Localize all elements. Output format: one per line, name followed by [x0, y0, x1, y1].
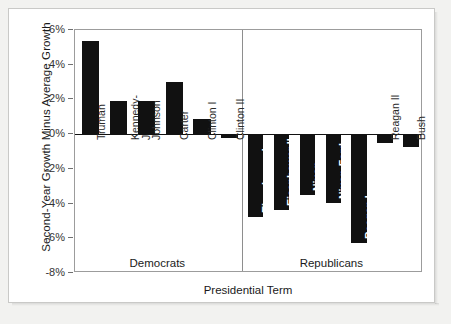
y-axis-tick-mark [68, 272, 73, 273]
bar [110, 101, 127, 134]
figure-panel: Second-Year Growth Minus Average Growth … [8, 8, 435, 303]
bar-category-label: Clinton I [207, 102, 218, 141]
bar-category-label: Clinton II [235, 99, 246, 140]
group-divider-line [242, 30, 243, 271]
y-axis-tick-label: -2% [31, 162, 65, 174]
y-axis-tick-label: -8% [31, 266, 65, 278]
y-axis-tick-label: 2% [31, 92, 65, 104]
y-axis-tick-mark [68, 64, 73, 65]
y-axis-tick-label: 0% [31, 127, 65, 139]
group-label-democrats: Democrats [74, 257, 241, 269]
bar-category-label: Carter [179, 111, 190, 140]
y-axis-tick-label: -6% [31, 231, 65, 243]
x-axis-title: Presidential Term [74, 284, 422, 296]
y-axis-tick-labels: 6%4%2%0%-2%-4%-6%-8% [31, 9, 65, 304]
y-axis-tick-label: -4% [31, 197, 65, 209]
chart-page: Second-Year Growth Minus Average Growth … [0, 0, 451, 324]
y-axis-tick-mark [68, 133, 73, 134]
panel-shadow-right [435, 12, 438, 304]
y-axis-tick-mark [68, 237, 73, 238]
bar-category-label: Truman [96, 104, 107, 140]
bar-category-label: Nixon-Ford [338, 143, 349, 199]
bar-category-label: Reagan II [390, 95, 401, 141]
y-axis-tick-mark [68, 98, 73, 99]
bar-category-label: Eisenhower II [286, 138, 297, 206]
y-axis-tick-mark [68, 203, 73, 204]
bar-category-label: Johnson [151, 100, 162, 140]
group-label-republicans: Republicans [241, 257, 422, 269]
y-axis-tick-label: 4% [31, 58, 65, 70]
y-axis-tick-label: 6% [31, 23, 65, 35]
bar-category-label: Eisenhower I [261, 149, 272, 214]
plot-area: TrumanKennedy-JohnsonJohnsonCarterClinto… [74, 29, 422, 272]
y-axis-tick-mark [68, 168, 73, 169]
bar-category-label: Bush [416, 116, 427, 140]
bar-category-label: Nixon [312, 162, 323, 191]
y-axis-tick-mark [68, 29, 73, 30]
panel-shadow-bottom [12, 303, 439, 306]
bar-category-label: Reagan I [364, 196, 375, 240]
